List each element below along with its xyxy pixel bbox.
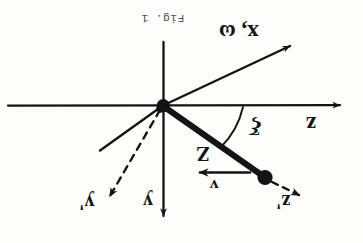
- figure-caption: Fig. 1: [141, 12, 184, 23]
- angle-xi-label: ξ: [250, 118, 261, 137]
- figure-canvas: Fig. 1 x, ω z y y' z' ξ Z v: [0, 0, 363, 243]
- x-omega-axis-label: x, ω: [219, 21, 259, 44]
- big-z-label: Z: [196, 143, 210, 164]
- y-axis-label: y: [143, 192, 153, 212]
- velocity-label: v: [210, 177, 219, 194]
- z-axis-label: z: [306, 113, 316, 136]
- y-prime-axis-label: y': [79, 193, 95, 213]
- x-omega-axis-line: [100, 46, 290, 151]
- bob-mass: [257, 170, 272, 185]
- z-prime-axis-label: z': [276, 192, 290, 212]
- y-prime-axis-dashed: [110, 110, 160, 196]
- angle-arc: [221, 107, 243, 147]
- rod: [163, 106, 263, 176]
